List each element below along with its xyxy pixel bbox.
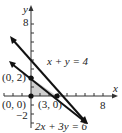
point-0-0 (28, 93, 33, 98)
x-axis-label: x (112, 82, 118, 94)
y-axis (29, 5, 35, 128)
y-tick-label-8: 8 (23, 16, 29, 28)
point-label-0-0: (0, 0) (2, 98, 26, 111)
equation-label-2x-plus-3y-eq-6: 2x + 3y = 6 (35, 120, 88, 132)
x-tick-label-8: 8 (100, 99, 106, 111)
y-axis-label: y (22, 3, 28, 15)
graph-diagram: y 8 x 8 −2 (0, 2) (0, 0) (3, 0) x + y = … (0, 0, 122, 133)
point-label-0-2: (0, 2) (2, 71, 26, 84)
equation-label-x-plus-y-eq-4: x + y = 4 (46, 55, 89, 67)
y-axis-arrow-icon (29, 5, 34, 11)
feasible-region (31, 78, 57, 96)
x-axis-arrow-icon (112, 94, 118, 99)
y-tick-label-neg2: −2 (16, 109, 28, 121)
point-0-2 (28, 75, 33, 80)
point-label-3-0: (3, 0) (38, 98, 62, 111)
